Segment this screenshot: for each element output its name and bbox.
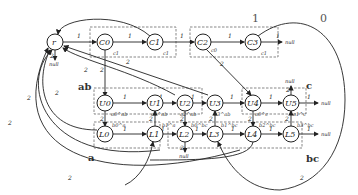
svg-text:1: 1 — [269, 93, 273, 100]
svg-text:2: 2 — [99, 66, 104, 73]
svg-text:b0^bc: b0^bc — [191, 122, 208, 128]
svg-text:2: 2 — [208, 115, 213, 122]
node-L1: L1 — [147, 126, 163, 142]
svg-text:null: null — [321, 100, 331, 106]
edge-to-L1 — [125, 142, 153, 185]
svg-text:2: 2 — [284, 115, 289, 122]
svg-text:a2^ab: a2^ab — [180, 111, 197, 117]
svg-text:null: null — [321, 131, 331, 137]
group-label-1: 1 — [252, 12, 259, 25]
null-label: null — [285, 39, 295, 45]
svg-text:1: 1 — [128, 32, 132, 39]
node-L2: L2 — [177, 126, 193, 142]
edge-C2-U4 — [206, 49, 251, 95]
svg-text:1: 1 — [180, 32, 184, 39]
svg-text:b1^bc: b1^bc — [221, 122, 238, 128]
node-r: r — [47, 34, 63, 50]
node-C2: C2 — [195, 34, 211, 50]
svg-text:null: null — [179, 153, 189, 159]
svg-text:a3^ab: a3^ab — [214, 111, 231, 117]
svg-text:L1: L1 — [148, 130, 159, 139]
svg-text:2: 2 — [83, 66, 88, 73]
svg-text:1: 1 — [230, 93, 234, 100]
svg-text:2: 2 — [179, 144, 184, 151]
node-C0: C0 — [97, 34, 113, 50]
svg-text:c0: c0 — [211, 47, 218, 53]
svg-text:2: 2 — [285, 86, 290, 93]
svg-text:b3^bc: b3^bc — [297, 122, 314, 128]
svg-text:a1^ab: a1^ab — [151, 111, 168, 117]
svg-text:2: 2 — [49, 52, 54, 59]
svg-text:U0: U0 — [99, 99, 111, 108]
svg-text:U3: U3 — [209, 99, 221, 108]
svg-text:L5: L5 — [284, 130, 295, 139]
svg-text:2: 2 — [54, 89, 59, 96]
svg-text:1: 1 — [228, 32, 232, 39]
node-U4: U4 — [245, 95, 261, 111]
svg-text:null: null — [285, 78, 295, 84]
svg-text:L0: L0 — [98, 130, 109, 139]
svg-text:C0: C0 — [99, 38, 110, 47]
svg-text:U2: U2 — [179, 99, 191, 108]
svg-text:1: 1 — [276, 32, 280, 39]
svg-text:U4: U4 — [247, 99, 259, 108]
svg-text:2: 2 — [26, 94, 31, 101]
node-U1: U1 — [147, 95, 163, 111]
svg-text:2: 2 — [219, 60, 224, 67]
node-U0: U0 — [97, 95, 113, 111]
svg-text:1: 1 — [307, 93, 311, 100]
svg-text:2: 2 — [125, 58, 130, 65]
node-U2: U2 — [177, 95, 193, 111]
svg-text:c1: c1 — [261, 50, 267, 56]
svg-text:L2: L2 — [178, 130, 189, 139]
svg-text:2: 2 — [299, 174, 304, 181]
node-L3: L3 — [207, 126, 223, 142]
edge-C3-arc — [258, 23, 345, 190]
svg-text:L4: L4 — [246, 130, 257, 139]
svg-text:1: 1 — [77, 32, 81, 39]
svg-text:2: 2 — [7, 119, 12, 126]
group-label-c: c — [306, 80, 312, 91]
node-L4: L4 — [245, 126, 261, 142]
svg-text:b1^a: b1^a — [162, 122, 176, 128]
svg-text:U1: U1 — [149, 99, 161, 108]
svg-text:C3: C3 — [247, 38, 258, 47]
svg-text:c1: c1 — [163, 50, 169, 56]
node-C1: C1 — [147, 34, 163, 50]
svg-text:b2^bc: b2^bc — [259, 122, 276, 128]
svg-text:C2: C2 — [197, 38, 208, 47]
node-C3: C3 — [245, 34, 261, 50]
group-label-bc: bc — [306, 153, 319, 164]
edge-C3-L3 — [218, 142, 280, 190]
svg-text:a0^ab: a0^ab — [111, 111, 128, 117]
svg-text:L3: L3 — [208, 130, 219, 139]
node-U5: U5 — [283, 95, 299, 111]
edge-C1-r — [58, 19, 150, 36]
svg-text:U5: U5 — [285, 99, 297, 108]
svg-text:b0^a: b0^a — [112, 122, 126, 128]
svg-text:a1^c: a1^c — [293, 111, 306, 117]
group-label-a: a — [88, 152, 95, 163]
node-L5: L5 — [283, 126, 299, 142]
svg-text:1: 1 — [123, 93, 127, 100]
node-L0: L0 — [97, 126, 113, 142]
svg-text:C1: C1 — [149, 38, 160, 47]
svg-text:2: 2 — [99, 115, 104, 122]
automaton-diagram: 1 0 ab c a bc null null null null nul — [0, 0, 358, 195]
svg-text:null: null — [49, 61, 59, 67]
svg-text:c1: c1 — [113, 50, 119, 56]
svg-text:2: 2 — [247, 115, 252, 122]
svg-text:a0^c: a0^c — [255, 111, 268, 117]
svg-text:2: 2 — [67, 174, 72, 181]
group-label-ab: ab — [78, 81, 91, 92]
group-label-0: 0 — [320, 12, 327, 25]
node-U3: U3 — [207, 95, 223, 111]
